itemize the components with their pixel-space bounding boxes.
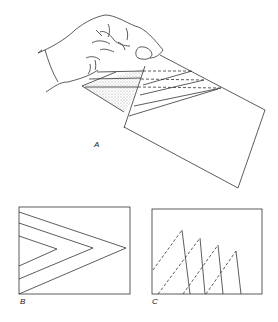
panel-a bbox=[38, 15, 265, 188]
diagram-canvas bbox=[0, 0, 278, 322]
chevron-inner bbox=[19, 236, 57, 266]
chevron-outer bbox=[19, 212, 126, 294]
label-a: A bbox=[94, 140, 99, 149]
label-c: C bbox=[152, 297, 158, 306]
chevron-middle bbox=[19, 223, 93, 279]
panel-b-frame bbox=[19, 207, 130, 294]
panel-b bbox=[19, 207, 130, 294]
panel-c bbox=[152, 209, 262, 294]
solid-peaks bbox=[182, 230, 241, 294]
panel-c-frame bbox=[152, 209, 262, 294]
paper-outline bbox=[124, 55, 265, 188]
dashed-slopes bbox=[153, 230, 236, 294]
label-b: B bbox=[20, 297, 25, 306]
hand-illustration bbox=[38, 15, 163, 92]
